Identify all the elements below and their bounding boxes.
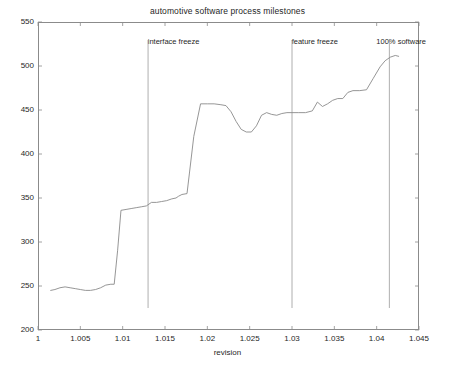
chart-figure: automotive software process milestones L… (0, 0, 455, 365)
chart-graphics (0, 0, 455, 365)
axis-tick-marks (38, 22, 419, 330)
data-series-lines (51, 55, 399, 290)
milestone-lines (148, 40, 389, 308)
